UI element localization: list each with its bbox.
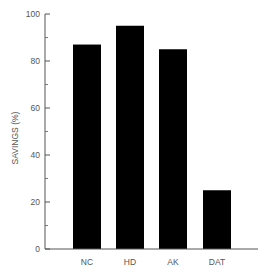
y-axis-label: SAVINGS (%) — [10, 111, 20, 164]
bar-dat — [203, 190, 231, 249]
bar-nc — [73, 45, 101, 249]
y-tick-label: 80 — [31, 56, 41, 66]
bar-chart: 020406080100 NCHDAKDAT SAVINGS (%) — [0, 0, 266, 272]
x-tick-label: AK — [167, 257, 179, 267]
y-tick-label: 100 — [26, 9, 40, 19]
y-tick-label: 20 — [31, 197, 41, 207]
x-tick-label: HD — [124, 257, 136, 267]
x-tick-label: DAT — [209, 257, 225, 267]
bar-ak — [159, 49, 187, 249]
y-tick-label: 40 — [31, 150, 41, 160]
bar-hd — [116, 26, 144, 249]
y-tick-label: 0 — [35, 244, 40, 254]
y-tick-label: 60 — [31, 103, 41, 113]
y-axis: 020406080100 — [26, 9, 50, 254]
x-axis: NCHDAKDAT — [45, 249, 258, 267]
bars — [73, 26, 231, 249]
x-tick-label: NC — [81, 257, 93, 267]
